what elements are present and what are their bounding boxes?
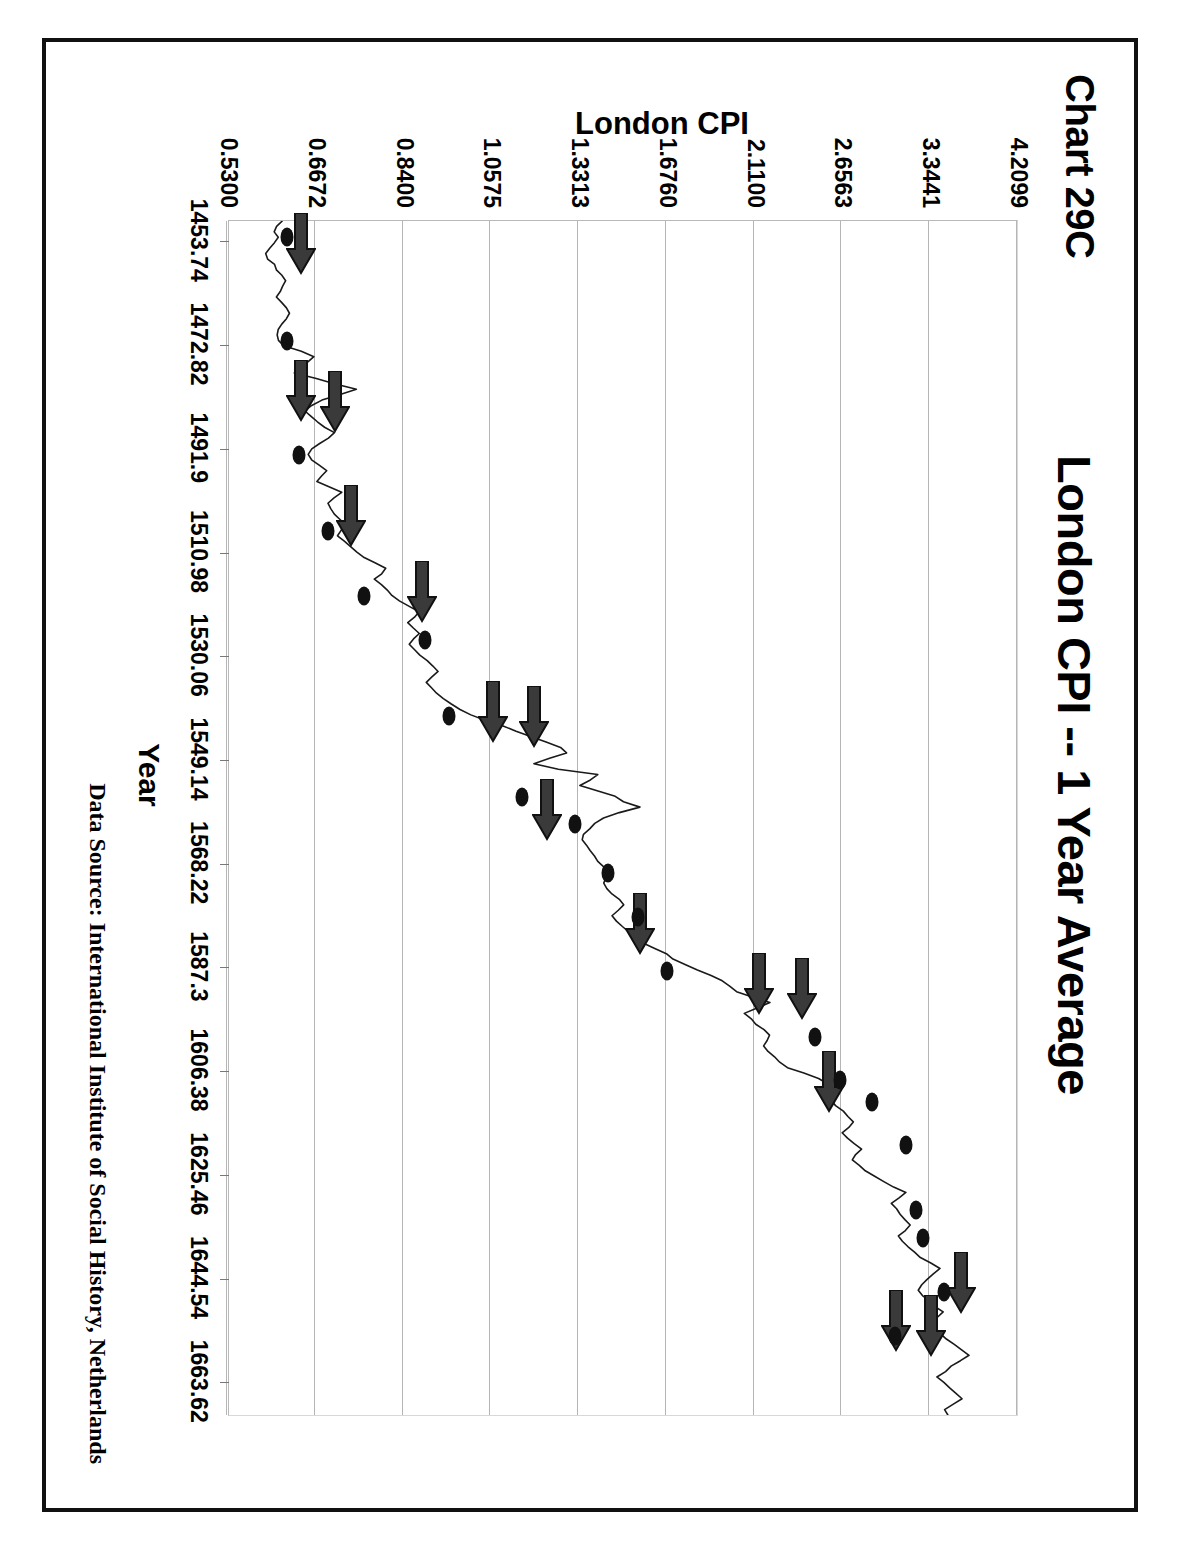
- y-tick-label: 1.3313: [566, 98, 593, 208]
- y-tick-label: 0.8400: [390, 98, 417, 208]
- annotation-arrow-icon: [474, 681, 508, 743]
- annotation-arrow-icon: [332, 485, 366, 547]
- annotation-dot-marker: [866, 1092, 879, 1111]
- annotation-arrow-icon: [740, 953, 774, 1015]
- x-tick-label: 1453.74: [185, 199, 212, 282]
- x-tick-mark: [220, 1071, 229, 1072]
- y-tick-label: 0.5300: [215, 98, 242, 208]
- x-tick-mark: [220, 1382, 229, 1383]
- annotation-arrow-icon: [515, 686, 549, 748]
- annotation-dot-marker: [321, 521, 334, 540]
- y-tick-label: 1.0575: [478, 98, 505, 208]
- x-tick-mark: [220, 553, 229, 554]
- annotation-dot-marker: [889, 1326, 902, 1345]
- x-tick-label: 1568.22: [185, 821, 212, 904]
- annotation-dot-marker: [280, 331, 293, 350]
- annotation-dot-marker: [516, 788, 529, 807]
- gridline-y: [226, 221, 227, 1415]
- data-source-note: Data Source: International Institute of …: [84, 783, 111, 1464]
- annotation-dot-marker: [292, 445, 305, 464]
- x-axis-title: Year: [132, 60, 166, 1490]
- x-tick-mark: [220, 1279, 229, 1280]
- annotation-dot-marker: [938, 1283, 951, 1302]
- x-tick-label: 1644.54: [185, 1236, 212, 1319]
- annotation-arrow-icon: [403, 561, 437, 623]
- x-tick-mark: [220, 967, 229, 968]
- rotated-chart-wrapper: Chart 29C London CPI -- 1 Year Average L…: [42, 38, 1138, 1512]
- x-tick-mark: [220, 1175, 229, 1176]
- x-tick-mark: [220, 241, 229, 242]
- x-tick-label: 1663.62: [185, 1340, 212, 1423]
- x-tick-mark: [220, 760, 229, 761]
- x-tick-mark: [220, 864, 229, 865]
- y-tick-label: 0.6672: [302, 98, 329, 208]
- annotation-dot-marker: [910, 1201, 923, 1220]
- x-tick-mark: [220, 656, 229, 657]
- annotation-arrow-icon: [282, 360, 316, 422]
- x-tick-label: 1587.3: [185, 931, 212, 1001]
- annotation-arrow-icon: [783, 958, 817, 1020]
- annotation-dot-marker: [418, 630, 431, 649]
- annotation-arrow-icon: [912, 1295, 946, 1357]
- annotation-dot-marker: [602, 864, 615, 883]
- y-tick-label: 2.1100: [741, 98, 768, 208]
- x-tick-mark: [220, 449, 229, 450]
- x-tick-mark: [220, 345, 229, 346]
- annotation-dot-marker: [632, 907, 645, 926]
- annotation-dot-marker: [917, 1228, 930, 1247]
- y-tick-label: 2.6563: [829, 98, 856, 208]
- annotation-dot-marker: [443, 706, 456, 725]
- annotation-dot-marker: [568, 815, 581, 834]
- annotation-dot-marker: [358, 587, 371, 606]
- annotation-arrow-icon: [528, 779, 562, 841]
- y-tick-label: 1.6760: [653, 98, 680, 208]
- annotation-dot-marker: [280, 228, 293, 247]
- plot-area: [228, 220, 1018, 1416]
- x-tick-label: 1625.46: [185, 1132, 212, 1215]
- annotation-dot-marker: [809, 1027, 822, 1046]
- x-tick-label: 1510.98: [185, 510, 212, 593]
- x-tick-label: 1549.14: [185, 717, 212, 800]
- annotation-arrow-icon: [316, 371, 350, 433]
- x-tick-label: 1530.06: [185, 614, 212, 697]
- chart-title: London CPI -- 1 Year Average: [1047, 60, 1102, 1490]
- chart-canvas: Chart 29C London CPI -- 1 Year Average L…: [70, 60, 1110, 1490]
- y-tick-label: 3.3441: [917, 98, 944, 208]
- y-tick-label: 4.2099: [1005, 98, 1032, 208]
- annotation-dot-marker: [660, 962, 673, 981]
- annotation-dot-marker: [834, 1070, 847, 1089]
- x-tick-label: 1491.9: [185, 413, 212, 483]
- annotation-dot-marker: [900, 1136, 913, 1155]
- x-tick-label: 1472.82: [185, 303, 212, 386]
- x-tick-label: 1606.38: [185, 1029, 212, 1112]
